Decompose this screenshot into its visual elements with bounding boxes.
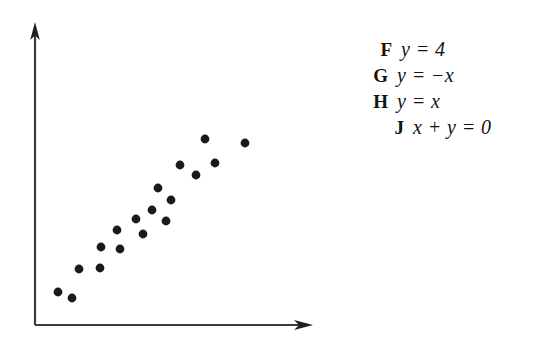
answer-choices-list: F y = 4 G y = −x H y = x J x + y = 0 <box>352 38 540 142</box>
data-point <box>54 288 63 297</box>
data-point <box>139 230 148 239</box>
choice-f-letter: F <box>366 39 392 61</box>
data-point <box>75 265 84 274</box>
choice-j-expression: x + y = 0 <box>413 116 491 139</box>
data-point <box>96 264 105 273</box>
choice-j[interactable]: J x + y = 0 <box>352 116 540 142</box>
data-point <box>176 161 185 170</box>
data-point <box>201 135 210 144</box>
data-point <box>167 196 176 205</box>
data-point <box>148 206 157 215</box>
choice-g-letter: G <box>362 65 388 87</box>
data-point <box>211 159 220 168</box>
choice-h-expression: y = x <box>397 90 440 113</box>
data-point-layer <box>54 135 250 303</box>
data-point <box>192 171 201 180</box>
data-point <box>154 184 163 193</box>
data-point <box>162 217 171 226</box>
data-point <box>132 215 141 224</box>
data-point <box>113 226 122 235</box>
figure-with-answer-choices: F y = 4 G y = −x H y = x J x + y = 0 <box>0 0 540 350</box>
data-point <box>241 139 250 148</box>
choice-g[interactable]: G y = −x <box>352 64 540 90</box>
choice-g-expression: y = −x <box>397 64 454 87</box>
scatterplot-svg <box>0 0 330 350</box>
data-point <box>116 245 125 254</box>
data-point <box>97 243 106 252</box>
choice-h-letter: H <box>362 91 388 113</box>
data-point <box>68 294 77 303</box>
choice-j-letter: J <box>378 117 404 139</box>
choice-f[interactable]: F y = 4 <box>352 38 540 64</box>
choice-f-expression: y = 4 <box>401 38 445 61</box>
scatterplot-figure <box>0 0 330 350</box>
choice-h[interactable]: H y = x <box>352 90 540 116</box>
